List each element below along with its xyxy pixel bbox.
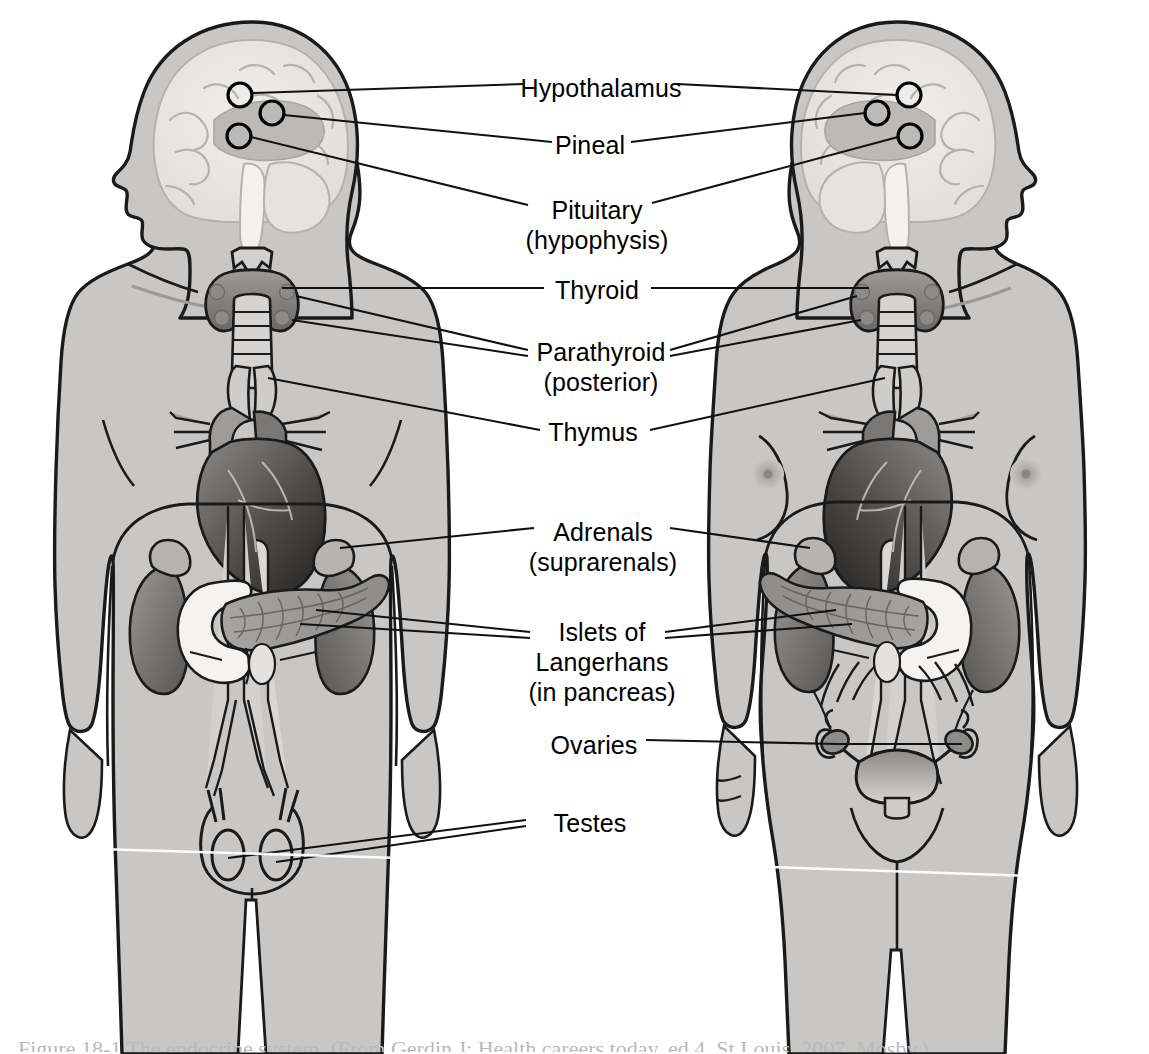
male-renal-pelvis: [249, 644, 275, 684]
female-renal-pelvis: [874, 642, 900, 682]
male-hand-left: [64, 730, 102, 838]
female-parathyroid-2: [920, 311, 935, 326]
label-hypothalamus: Hypothalamus: [520, 73, 681, 103]
male-arm-inner-left: [107, 566, 112, 766]
male-figure: [55, 22, 450, 1054]
female-adrenal-left: [959, 538, 999, 574]
male-parathyroid-2: [215, 311, 230, 326]
female-figure: [709, 22, 1086, 1054]
male-testis-left: [212, 830, 244, 880]
male-adrenal-right: [314, 540, 354, 576]
female-brainstem: [884, 164, 909, 254]
label-thyroid: Thyroid: [555, 275, 639, 305]
male-parathyroid-3: [280, 285, 295, 300]
female-nipple-left: [1022, 470, 1031, 479]
figure-caption: Figure 18-1 The endocrine system. (From …: [18, 1036, 1138, 1052]
label-thymus: Thymus: [548, 417, 638, 447]
female-hand-left: [1039, 726, 1077, 836]
female-uterus: [856, 750, 938, 804]
female-cervix: [885, 798, 909, 819]
label-adrenals: Adrenals (suprarenals): [529, 517, 678, 577]
label-pineal: Pineal: [555, 130, 625, 160]
male-parathyroid-1: [210, 285, 225, 300]
female-adrenal-right: [795, 538, 835, 574]
label-parathyroid: Parathyroid (posterior): [537, 337, 666, 397]
male-brainstem: [240, 164, 265, 254]
male-hand-right: [402, 730, 440, 838]
female-parathyroid-3: [855, 285, 870, 300]
female-nipple-right: [764, 470, 773, 479]
endocrine-diagram: Hypothalamus Pineal Pituitary (hypophysi…: [0, 0, 1149, 1054]
label-islets: Islets of Langerhans (in pancreas): [528, 617, 675, 707]
female-parathyroid-1: [925, 285, 940, 300]
male-adrenal-left: [150, 540, 190, 576]
label-pituitary: Pituitary (hypophysis): [526, 195, 669, 255]
female-parathyroid-4: [860, 311, 875, 326]
label-ovaries: Ovaries: [551, 730, 638, 760]
male-arm-inner-right: [392, 566, 397, 766]
male-parathyroid-4: [275, 311, 290, 326]
label-testes: Testes: [554, 808, 627, 838]
